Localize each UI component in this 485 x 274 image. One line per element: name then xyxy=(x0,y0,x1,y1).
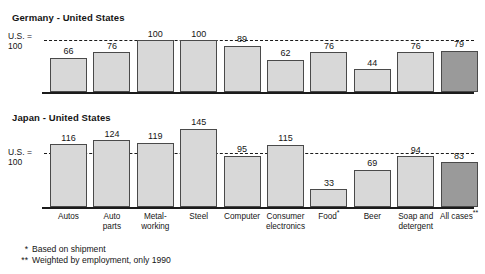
baseline-germany xyxy=(42,92,474,94)
category-label-9-line1: All cases xyxy=(440,212,473,221)
footnote-0-text: Based on shipment xyxy=(32,244,106,254)
bar-germany-8 xyxy=(397,52,434,92)
category-label-5-line2: electronics xyxy=(266,222,305,231)
category-label-4-line1: Computer xyxy=(224,212,260,221)
category-label-1-line1: Auto xyxy=(103,212,120,221)
bar-value-germany-9: 79 xyxy=(437,39,482,49)
bar-germany-4 xyxy=(224,46,261,92)
bar-germany-0 xyxy=(50,58,87,92)
bar-japan-8 xyxy=(397,156,434,207)
bar-japan-9 xyxy=(441,162,478,207)
category-label-0-line1: Autos xyxy=(58,212,79,221)
bar-value-japan-2: 119 xyxy=(133,131,178,141)
bar-value-germany-3: 100 xyxy=(176,29,221,39)
bar-value-germany-8: 76 xyxy=(393,41,438,51)
category-label-6-line1: Food xyxy=(318,212,337,221)
footnote-0: *Based on shipment xyxy=(14,244,414,255)
bar-value-germany-4: 89 xyxy=(220,34,265,44)
bar-japan-4 xyxy=(224,156,261,207)
bar-value-japan-5: 115 xyxy=(263,133,308,143)
category-label-8-line1: Soap and xyxy=(398,212,433,221)
bar-value-germany-0: 66 xyxy=(46,46,91,56)
plot-area-germany: 6676100100896276447679 xyxy=(0,0,485,100)
bar-value-japan-8: 94 xyxy=(393,145,438,155)
bar-japan-3 xyxy=(180,129,217,207)
category-label-9-footnote-mark: ** xyxy=(473,209,478,216)
category-label-8-line2: detergent xyxy=(398,222,433,231)
category-label-5-line1: Consumer xyxy=(267,212,305,221)
panel-germany: Germany - United States U.S. = 100 66761… xyxy=(0,0,485,100)
bar-japan-1 xyxy=(93,140,130,207)
baseline-japan xyxy=(42,207,474,209)
footnote-0-mark: * xyxy=(14,244,28,255)
bar-germany-6 xyxy=(310,52,347,92)
chart-figure: Germany - United States U.S. = 100 66761… xyxy=(0,0,485,274)
bar-value-germany-5: 62 xyxy=(263,48,308,58)
footnote-1-text: Weighted by employment, only 1990 xyxy=(32,255,171,265)
footnote-1-mark: ** xyxy=(14,255,28,266)
bar-japan-0 xyxy=(50,144,87,207)
bar-value-germany-2: 100 xyxy=(133,29,178,39)
bar-germany-3 xyxy=(180,40,217,92)
bar-japan-5 xyxy=(267,145,304,207)
category-label-1-line2: parts xyxy=(103,222,121,231)
bar-japan-2 xyxy=(137,143,174,207)
category-label-2-line1: Metal- xyxy=(144,212,167,221)
category-axis-labels: AutosAutopartsMetal-workingSteelComputer… xyxy=(0,212,485,242)
footnotes: *Based on shipment**Weighted by employme… xyxy=(14,244,414,266)
category-label-6-footnote-mark: * xyxy=(337,209,340,216)
bar-value-japan-0: 116 xyxy=(46,133,91,143)
bar-value-japan-3: 145 xyxy=(176,117,221,127)
bar-value-germany-7: 44 xyxy=(350,58,395,68)
bar-value-japan-4: 95 xyxy=(220,144,265,154)
bar-value-germany-1: 76 xyxy=(89,41,134,51)
bar-germany-7 xyxy=(354,69,391,92)
footnote-1: **Weighted by employment, only 1990 xyxy=(14,255,414,266)
bar-japan-6 xyxy=(310,189,347,207)
category-label-3-line1: Steel xyxy=(189,212,208,221)
bar-value-japan-1: 124 xyxy=(89,129,134,139)
bar-value-japan-9: 83 xyxy=(437,151,482,161)
bar-japan-7 xyxy=(354,170,391,207)
bar-value-japan-7: 69 xyxy=(350,158,395,168)
bar-germany-2 xyxy=(137,40,174,92)
bar-value-japan-6: 33 xyxy=(306,178,351,188)
bar-value-germany-6: 76 xyxy=(306,41,351,51)
category-label-9: All cases** xyxy=(432,212,485,222)
bar-germany-5 xyxy=(267,60,304,92)
bar-germany-9 xyxy=(441,51,478,92)
bar-germany-1 xyxy=(93,52,130,92)
category-label-7-line1: Beer xyxy=(364,212,381,221)
category-label-2-line2: working xyxy=(141,222,169,231)
